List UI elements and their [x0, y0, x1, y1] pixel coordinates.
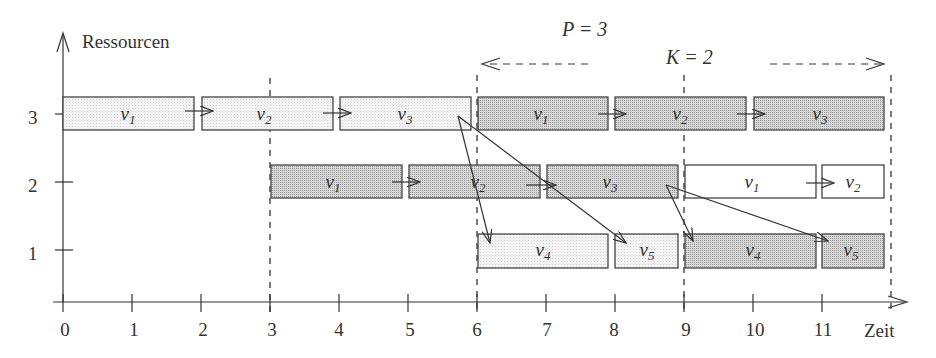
resource-2-row	[271, 165, 884, 198]
schedule-diagram: Ressourcen 3 2 1 0 1 2 3 4 5 6 7 8 9 10 …	[0, 0, 936, 358]
period-label: P = 3	[561, 18, 607, 40]
y-tick-2: 2	[28, 175, 38, 196]
x-tick-7: 7	[542, 319, 552, 340]
x-tick-4: 4	[334, 319, 344, 340]
x-axis-label: Zeit	[864, 320, 895, 341]
y-axis	[55, 33, 73, 302]
x-tick-0: 0	[60, 319, 70, 340]
x-tick-8: 8	[609, 319, 619, 340]
x-tick-9: 9	[681, 319, 691, 340]
x-axis	[53, 294, 907, 312]
x-tick-6: 6	[472, 319, 482, 340]
x-tick-1: 1	[129, 319, 139, 340]
x-tick-10: 10	[746, 319, 765, 340]
y-tick-3: 3	[28, 107, 38, 128]
x-tick-2: 2	[198, 319, 208, 340]
x-tick-5: 5	[405, 319, 415, 340]
latency-label: K = 2	[665, 46, 713, 68]
x-tick-11: 11	[814, 319, 832, 340]
x-tick-3: 3	[267, 319, 277, 340]
y-axis-label: Ressourcen	[82, 31, 170, 52]
y-tick-1: 1	[28, 243, 38, 264]
x-tick-labels: 0 1 2 3 4 5 6 7 8 9 10 11	[60, 319, 832, 340]
